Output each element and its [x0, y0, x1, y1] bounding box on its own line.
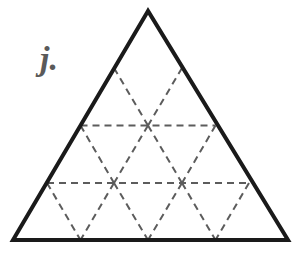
dashed-segment-left-lean-row3-a	[47, 183, 81, 240]
dashed-segment-left-lean-row1	[114, 68, 148, 126]
dashed-segment-left-lean-row2-a	[81, 126, 115, 184]
figure-label: j.	[40, 42, 58, 76]
dashed-segment-right-lean-row3-c	[216, 183, 250, 240]
dashed-segment-right-lean-row3-a	[81, 183, 115, 240]
dashed-segment-left-lean-row2-b	[148, 126, 182, 184]
dashed-segment-right-lean-row1	[148, 68, 182, 126]
dashed-segment-left-lean-row3-c	[182, 183, 216, 240]
dashed-segment-left-lean-row3-b	[114, 183, 148, 240]
dashed-segment-right-lean-row2-b	[182, 126, 216, 184]
dashed-subdivision-lines	[47, 68, 249, 240]
dashed-segment-right-lean-row2-a	[114, 126, 148, 184]
dashed-segment-right-lean-row3-b	[148, 183, 182, 240]
triangle-diagram-canvas	[0, 0, 300, 255]
